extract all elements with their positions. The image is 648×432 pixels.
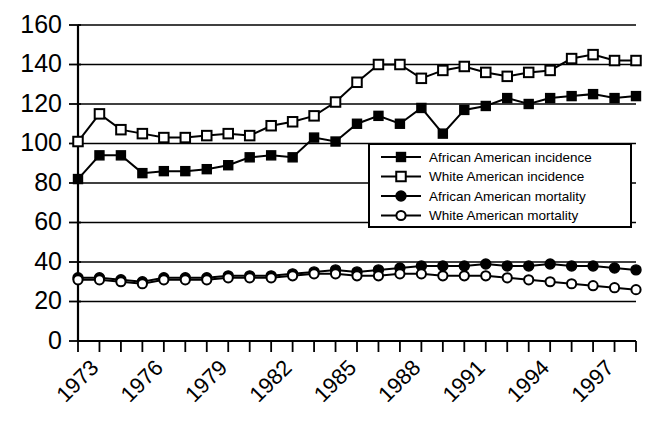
legend-label: White American mortality	[429, 208, 579, 223]
data-point	[588, 281, 597, 290]
data-point	[159, 275, 168, 284]
y-tick-label-0: 0	[48, 326, 62, 354]
x-tick-label-1985: 1985	[309, 355, 361, 407]
data-point	[438, 261, 448, 271]
data-point	[159, 167, 168, 176]
legend-marker-open-square	[396, 172, 406, 182]
y-tick-label-140: 140	[20, 49, 62, 77]
data-point	[417, 269, 426, 278]
data-point	[460, 105, 469, 114]
y-tick-label-20: 20	[34, 286, 62, 314]
data-point	[138, 169, 147, 178]
data-point	[95, 151, 104, 160]
series-white-american-mortality	[73, 269, 640, 294]
x-tick-label-1979: 1979	[180, 355, 232, 407]
x-axis-tick-labels: 197319761979198219851988199119941997	[51, 355, 618, 407]
data-point	[245, 273, 254, 282]
x-tick-label-1994: 1994	[502, 355, 554, 407]
data-point	[438, 66, 448, 76]
data-point	[95, 109, 105, 119]
data-point	[116, 151, 125, 160]
data-point	[95, 275, 104, 284]
data-point	[181, 275, 190, 284]
legend-label: African American incidence	[429, 150, 592, 165]
chart-legend: African American incidenceWhite American…	[369, 144, 631, 227]
data-point	[245, 153, 254, 162]
data-point	[460, 62, 470, 72]
data-point	[459, 261, 469, 271]
data-point	[374, 111, 383, 120]
line-chart: 020406080100120140160 197319761979198219…	[0, 0, 648, 432]
data-point	[138, 279, 147, 288]
legend-marker-filled-circle	[396, 191, 406, 201]
y-tick-label-100: 100	[20, 128, 62, 156]
data-point	[73, 275, 82, 284]
data-point	[631, 285, 640, 294]
data-point	[503, 94, 512, 103]
data-point	[438, 271, 447, 280]
data-point	[417, 103, 426, 112]
data-point	[395, 119, 404, 128]
data-point	[545, 66, 555, 76]
data-point	[309, 111, 319, 121]
data-point	[245, 131, 255, 141]
data-point	[138, 129, 148, 139]
data-point	[309, 269, 318, 278]
data-point	[524, 261, 534, 271]
x-tick-label-1982: 1982	[244, 355, 296, 407]
data-point	[546, 94, 555, 103]
y-tick-label-40: 40	[34, 247, 62, 275]
data-point	[331, 269, 340, 278]
data-point	[352, 271, 361, 280]
data-point	[631, 265, 641, 275]
data-point	[181, 133, 191, 143]
y-tick-label-80: 80	[34, 168, 62, 196]
data-point	[588, 261, 598, 271]
data-point	[395, 60, 405, 70]
data-point	[266, 121, 276, 131]
data-point	[116, 125, 126, 135]
data-point	[481, 259, 491, 269]
data-point	[224, 161, 233, 170]
data-point	[632, 92, 641, 101]
data-point	[610, 263, 620, 273]
y-tick-label-160: 160	[20, 10, 62, 38]
data-point	[524, 68, 534, 78]
x-tick-label-1991: 1991	[438, 355, 490, 407]
data-point	[610, 283, 619, 292]
legend-label: African American mortality	[429, 189, 586, 204]
data-point	[567, 279, 576, 288]
legend-marker-filled-square	[397, 153, 406, 162]
x-tick-label-1988: 1988	[373, 355, 425, 407]
data-point	[202, 275, 211, 284]
data-point	[610, 94, 619, 103]
data-point	[481, 271, 490, 280]
data-point	[288, 271, 297, 280]
data-point	[524, 275, 533, 284]
data-point	[524, 100, 533, 109]
chart-canvas: 020406080100120140160 197319761979198219…	[0, 0, 648, 432]
data-point	[288, 153, 297, 162]
data-point	[589, 90, 598, 99]
data-point	[395, 269, 404, 278]
data-point	[352, 78, 362, 88]
x-tick-label-1973: 1973	[51, 355, 103, 407]
data-point	[545, 259, 555, 269]
data-point	[288, 117, 298, 127]
x-tick-label-1976: 1976	[116, 355, 168, 407]
x-tick-label-1997: 1997	[566, 355, 618, 407]
data-point	[116, 277, 125, 286]
data-point	[588, 50, 598, 60]
data-point	[502, 261, 512, 271]
data-point	[631, 56, 641, 66]
data-point	[438, 129, 447, 138]
data-point	[267, 273, 276, 282]
data-point	[223, 129, 233, 139]
legend-marker-open-circle	[396, 211, 405, 220]
data-point	[267, 151, 276, 160]
data-point	[417, 74, 427, 84]
data-point	[503, 273, 512, 282]
data-point	[73, 137, 83, 147]
data-point	[181, 167, 190, 176]
data-point	[567, 261, 577, 271]
